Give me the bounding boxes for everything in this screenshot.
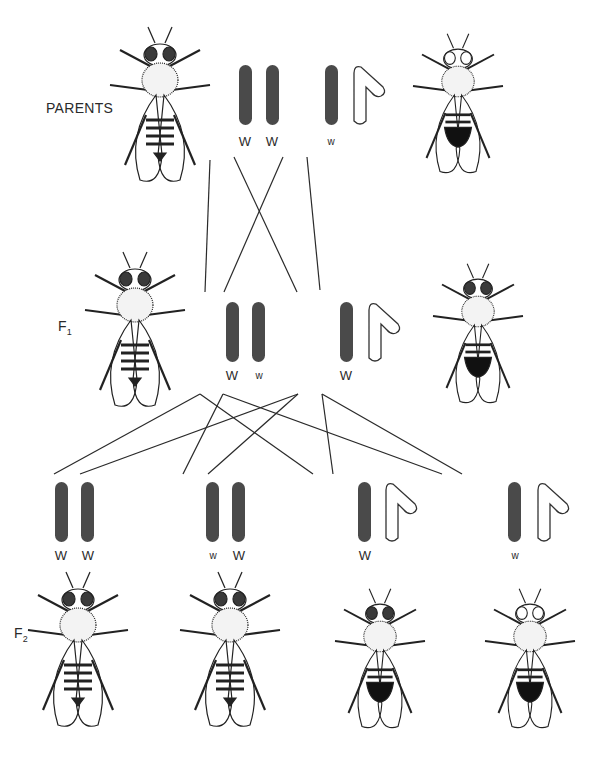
x-chromosome (508, 482, 521, 542)
white-eye-icon (461, 52, 472, 65)
x-chromosome (232, 482, 245, 542)
allele-label: W (233, 548, 245, 563)
x-chromosome (206, 482, 219, 542)
red-eye-icon (120, 272, 132, 286)
allele-label: W (266, 134, 278, 149)
x-chromosome (226, 302, 239, 362)
white-eye-icon (517, 607, 528, 620)
red-eye-icon (215, 592, 227, 606)
x-chromosome (239, 65, 252, 125)
allele-label: w (255, 370, 262, 381)
generation-label: F1 (58, 318, 72, 337)
red-eye-icon (138, 272, 150, 286)
x-chromosome (325, 65, 338, 125)
allele-label: W (359, 548, 371, 563)
inheritance-line (234, 157, 297, 292)
allele-label: W (340, 368, 352, 383)
x-chromosome (358, 482, 371, 542)
inheritance-line (307, 157, 320, 290)
red-eye-icon (465, 282, 476, 295)
red-eye-icon (145, 47, 157, 61)
white-eye-icon (445, 52, 456, 65)
fly-parent-male (413, 34, 503, 173)
red-eye-icon (383, 607, 394, 620)
inheritance-line (224, 157, 283, 292)
inheritance-line (205, 160, 210, 292)
red-eye-icon (81, 592, 93, 606)
red-eye-icon (481, 282, 492, 295)
inheritance-line (322, 394, 462, 474)
fly-f2-female-2 (180, 572, 280, 726)
fly-f2-male-white (485, 589, 575, 728)
red-eye-icon (163, 47, 175, 61)
generation-label: PARENTS (46, 100, 113, 116)
y-chromosome (354, 67, 385, 124)
x-chromosome (252, 302, 265, 362)
inheritance-line (54, 394, 200, 474)
red-eye-icon (233, 592, 245, 606)
x-chromosome (266, 65, 279, 125)
white-eye-icon (533, 607, 544, 620)
fly-f2-male-red (335, 589, 425, 728)
allele-label: W (82, 548, 94, 563)
y-chromosome (386, 484, 417, 541)
fly-f2-female-1 (28, 572, 128, 726)
red-eye-icon (63, 592, 75, 606)
inheritance-diagram: PARENTSF1F2WWwWwWWWwWWw (0, 0, 613, 759)
inheritance-line (208, 394, 298, 474)
allele-label: W (55, 548, 67, 563)
allele-label: w (511, 550, 518, 561)
fly-f1-male (433, 264, 523, 403)
fly-parent-female (110, 27, 210, 181)
generation-label: F2 (14, 625, 28, 644)
y-chromosome (369, 304, 400, 361)
allele-label: w (209, 550, 216, 561)
allele-label: w (327, 136, 334, 147)
allele-label: W (239, 134, 251, 149)
x-chromosome (55, 482, 68, 542)
x-chromosome (81, 482, 94, 542)
x-chromosome (340, 302, 353, 362)
fly-f1-female (85, 252, 185, 406)
y-chromosome (538, 484, 569, 541)
allele-label: W (226, 368, 238, 383)
red-eye-icon (367, 607, 378, 620)
